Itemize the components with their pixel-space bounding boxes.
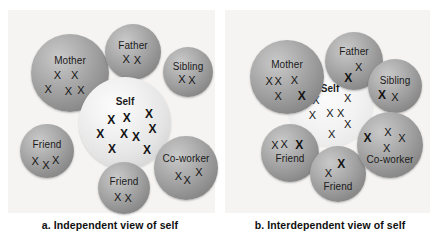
- node-label-friend-left-a: Friend: [20, 139, 74, 150]
- mark: X: [391, 91, 398, 102]
- node-label-friend-left-b: Friend: [261, 153, 319, 164]
- caption-panel-b: b. Interdependent view of self: [220, 219, 440, 231]
- mark: X: [77, 85, 84, 96]
- mark: X: [96, 128, 104, 140]
- mark: X: [107, 114, 115, 126]
- mark: X: [132, 131, 140, 143]
- mark: X: [378, 89, 386, 101]
- node-friend-bottom-a: Friend X X: [98, 162, 150, 214]
- mark: X: [325, 167, 332, 178]
- caption-panel-a: a. Independent view of self: [0, 219, 220, 231]
- node-coworker-a: Co-worker X X X: [154, 136, 218, 200]
- node-label-mother-a: Mother: [31, 55, 109, 66]
- node-label-coworker-b: Co-worker: [357, 154, 423, 165]
- mark: X: [266, 76, 273, 87]
- mark: X: [344, 119, 351, 130]
- node-label-mother-b: Mother: [250, 59, 324, 70]
- mark: X: [398, 133, 405, 144]
- node-mother-b: Mother X X X X X: [250, 40, 324, 114]
- node-label-friend-bottom-a: Friend: [98, 176, 150, 187]
- mark: X: [178, 74, 185, 85]
- mark: X: [337, 107, 344, 118]
- node-label-sibling-b: Sibling: [368, 75, 422, 86]
- node-sibling-b: Sibling X X: [368, 59, 422, 113]
- panel-interdependent-view: Self X X X X X X X Mother X X X X X Fath…: [220, 0, 440, 215]
- mark: X: [188, 75, 195, 86]
- mark: X: [274, 76, 281, 87]
- node-label-sibling-a: Sibling: [163, 61, 213, 72]
- node-label-self-a: Self: [79, 96, 171, 107]
- mark: X: [175, 171, 182, 182]
- mark: X: [134, 54, 141, 65]
- mark: X: [309, 109, 316, 120]
- mark: X: [71, 69, 78, 80]
- node-coworker-b: Co-worker X X X X: [357, 112, 423, 178]
- mark: X: [383, 142, 390, 153]
- mark: X: [274, 91, 281, 102]
- mark: X: [337, 158, 345, 170]
- mark: X: [120, 128, 128, 140]
- mark: X: [364, 132, 372, 144]
- mark: X: [145, 108, 153, 120]
- mark: X: [54, 69, 61, 80]
- mark: X: [143, 144, 151, 156]
- mark: X: [52, 154, 59, 165]
- mark: X: [123, 54, 130, 65]
- mark: X: [295, 139, 303, 151]
- mark: X: [355, 61, 362, 72]
- mark: X: [281, 138, 288, 149]
- node-friend-left-a: Friend X X X: [20, 124, 74, 178]
- node-sibling-a: Sibling X X: [163, 47, 213, 97]
- node-label-coworker-a: Co-worker: [154, 153, 218, 164]
- mark: X: [123, 112, 131, 124]
- mark: X: [42, 160, 49, 171]
- mark: X: [31, 155, 38, 166]
- figure-independent-interdependent-self: Mother X X X X X Father X X Sibling X X …: [0, 0, 440, 243]
- mark: X: [195, 166, 202, 177]
- node-label-father-b: Father: [325, 46, 383, 57]
- mark: X: [384, 126, 391, 137]
- mark: X: [271, 139, 278, 150]
- node-label-father-a: Father: [105, 40, 161, 51]
- mark: X: [184, 174, 191, 185]
- mark: X: [298, 90, 306, 102]
- mark: X: [344, 72, 352, 84]
- mark: X: [328, 128, 335, 139]
- node-label-friend-bottom-b: Friend: [310, 181, 366, 192]
- mark: X: [149, 123, 157, 135]
- mark: X: [326, 107, 333, 118]
- mark: X: [114, 191, 121, 202]
- mark: X: [65, 85, 72, 96]
- mark: X: [44, 83, 51, 94]
- mark: X: [344, 92, 351, 103]
- panel-independent-view: Mother X X X X X Father X X Sibling X X …: [0, 0, 220, 215]
- mark: X: [291, 74, 298, 85]
- mark: X: [124, 192, 131, 203]
- mark: X: [108, 143, 116, 155]
- node-father-a: Father X X: [105, 24, 161, 80]
